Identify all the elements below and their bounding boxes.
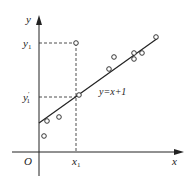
data-point xyxy=(132,51,137,56)
x1-label: x1 xyxy=(71,155,81,169)
y1-label: y1 xyxy=(22,37,32,51)
y-axis-label: y xyxy=(25,13,31,25)
origin-label: O xyxy=(24,155,32,167)
data-point xyxy=(74,41,79,46)
x-axis-label: x xyxy=(171,155,177,167)
data-point xyxy=(154,35,159,40)
data-point xyxy=(112,55,117,60)
data-point xyxy=(45,119,50,124)
data-point xyxy=(132,57,137,62)
data-point xyxy=(42,134,47,139)
y-axis-arrow-icon xyxy=(36,15,42,25)
data-point xyxy=(77,93,82,98)
data-point xyxy=(57,115,62,120)
y1-prime-label: y′1 xyxy=(22,90,30,105)
regression-equation-label: y=x+1 xyxy=(98,86,126,97)
data-point xyxy=(140,51,145,56)
regression-line xyxy=(39,38,158,123)
data-point xyxy=(107,67,112,72)
scatter-diagram: y x O y1 y′1 x1 y=x+1 xyxy=(0,0,191,182)
